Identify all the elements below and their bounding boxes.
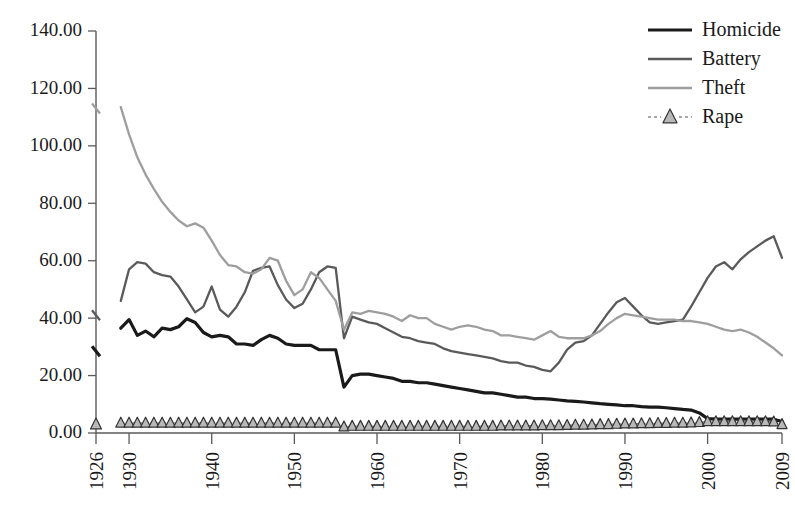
legend-item-rape[interactable]: Rape	[648, 105, 743, 128]
x-tick-label: 2000	[698, 452, 719, 490]
legend-triangle-icon	[663, 109, 677, 123]
series-theft	[92, 104, 782, 356]
y-tick-label: 140.00	[30, 19, 82, 40]
legend-label: Homicide	[702, 18, 781, 40]
x-tick-label: 1990	[615, 452, 636, 490]
x-tick-label: 1930	[119, 452, 140, 490]
x-axis: 1926193019401950196019701980199020002009	[86, 433, 793, 490]
y-tick-label: 60.00	[39, 249, 82, 270]
legend-label: Rape	[702, 105, 743, 128]
x-tick-label: 1940	[202, 452, 223, 490]
series-rape	[91, 416, 788, 431]
y-tick-label: 80.00	[39, 192, 82, 213]
chart-legend: HomicideBatteryTheftRape	[648, 18, 781, 128]
x-tick-label: 1926	[86, 452, 107, 490]
y-tick-label: 40.00	[39, 307, 82, 328]
legend-label: Battery	[702, 47, 761, 70]
legend-label: Theft	[702, 76, 746, 98]
y-tick-label: 20.00	[39, 364, 82, 385]
x-tick-label: 2009	[772, 452, 793, 490]
series-layer	[91, 104, 788, 431]
x-tick-label: 1960	[367, 452, 388, 490]
legend-item-homicide[interactable]: Homicide	[648, 18, 781, 40]
x-tick-label: 1980	[532, 452, 553, 490]
chart-svg: 0.0020.0040.0060.0080.00100.00120.00140.…	[0, 0, 795, 531]
legend-item-battery[interactable]: Battery	[648, 47, 761, 70]
series-homicide	[92, 319, 782, 422]
series-battery	[92, 236, 782, 371]
series-line-homicide	[121, 319, 782, 422]
data-marker	[331, 417, 341, 427]
x-tick-label: 1950	[284, 452, 305, 490]
data-marker	[91, 418, 102, 429]
y-tick-label: 100.00	[30, 134, 82, 155]
x-tick-label: 1970	[450, 452, 471, 490]
y-axis: 0.0020.0040.0060.0080.00100.00120.00140.…	[30, 19, 96, 442]
y-tick-label: 120.00	[30, 77, 82, 98]
legend-item-theft[interactable]: Theft	[648, 76, 746, 98]
crime-rate-line-chart: 0.0020.0040.0060.0080.00100.00120.00140.…	[0, 0, 795, 531]
y-tick-label: 0.00	[49, 421, 82, 442]
